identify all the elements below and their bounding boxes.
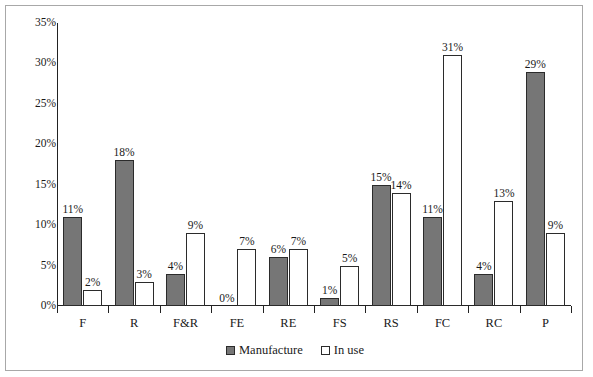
x-axis-category-label: RS <box>365 314 416 332</box>
chart-legend: ManufactureIn use <box>6 344 584 357</box>
x-axis-tick <box>108 306 109 313</box>
bar-in-use[interactable] <box>340 266 359 306</box>
bar-series-layer: 11%2%18%3%4%9%0%7%6%7%1%5%15%14%11%31%4%… <box>57 23 571 306</box>
x-axis-category-label: P <box>520 314 571 332</box>
bar-in-use[interactable] <box>392 193 411 306</box>
bar-in-use[interactable] <box>289 249 308 306</box>
x-axis-tick <box>160 306 161 313</box>
y-axis-tick-label: 5% <box>12 260 56 272</box>
x-axis-category-label: F&R <box>160 314 211 332</box>
bar-manufacture[interactable] <box>372 185 391 306</box>
x-axis-tick <box>417 306 418 313</box>
bar-slot: 5% <box>340 23 359 306</box>
bar-slot: 7% <box>237 23 256 306</box>
bar-in-use[interactable] <box>546 233 565 306</box>
bar-slot: 29% <box>526 23 545 306</box>
x-axis-category-label: F <box>57 314 108 332</box>
bar-value-label: 5% <box>342 253 357 265</box>
legend-label: Manufacture <box>239 344 303 357</box>
x-axis-category-label: FC <box>417 314 468 332</box>
x-axis-category-labels: FRF&RFEREFSRSFCRCP <box>57 314 571 332</box>
bar-value-label: 0% <box>219 293 234 305</box>
y-axis-tick-label: 0% <box>12 300 56 312</box>
y-axis-tick-label: 10% <box>12 219 56 231</box>
bar-slot: 0% <box>217 23 236 306</box>
x-axis-tick <box>263 306 264 313</box>
bar-slot: 2% <box>83 23 102 306</box>
bar-manufacture[interactable] <box>526 72 545 306</box>
x-axis-category-label: RC <box>468 314 519 332</box>
bar-manufacture[interactable] <box>423 217 442 306</box>
bar-value-label: 11% <box>422 204 443 216</box>
bar-in-use[interactable] <box>237 249 256 306</box>
bar-value-label: 7% <box>291 236 306 248</box>
bar-manufacture[interactable] <box>115 160 134 306</box>
chart-frame: 0%5%10%15%20%25%30%35% 11%2%18%3%4%9%0%7… <box>5 5 583 371</box>
bar-value-label: 4% <box>476 261 491 273</box>
bar-value-label: 7% <box>239 236 254 248</box>
bar-slot: 6% <box>269 23 288 306</box>
bar-value-label: 9% <box>548 220 563 232</box>
bar-group: 6%7% <box>263 23 314 306</box>
bar-in-use[interactable] <box>186 233 205 306</box>
bar-value-label: 15% <box>371 172 392 184</box>
bar-slot: 14% <box>392 23 411 306</box>
bar-in-use[interactable] <box>135 282 154 306</box>
bar-slot: 4% <box>474 23 493 306</box>
bar-group: 4%13% <box>468 23 519 306</box>
x-axis-tick <box>468 306 469 313</box>
y-axis-tick-label: 20% <box>12 139 56 151</box>
y-axis-tick-label: 15% <box>12 179 56 191</box>
bar-value-label: 14% <box>391 180 412 192</box>
bar-group: 1%5% <box>314 23 365 306</box>
x-axis-category-label: FE <box>211 314 262 332</box>
bar-value-label: 9% <box>188 220 203 232</box>
bar-slot: 1% <box>320 23 339 306</box>
bar-value-label: 4% <box>168 261 183 273</box>
bar-in-use[interactable] <box>83 290 102 306</box>
bar-slot: 11% <box>423 23 442 306</box>
bar-slot: 9% <box>546 23 565 306</box>
bar-value-label: 29% <box>525 59 546 71</box>
x-axis-category-label: FS <box>314 314 365 332</box>
bar-slot: 13% <box>494 23 513 306</box>
bar-group: 11%31% <box>417 23 468 306</box>
bar-in-use[interactable] <box>494 201 513 306</box>
bar-value-label: 3% <box>136 269 151 281</box>
bar-group: 29%9% <box>520 23 571 306</box>
bar-manufacture[interactable] <box>269 257 288 306</box>
x-axis-tick <box>57 306 58 313</box>
bar-value-label: 13% <box>493 188 514 200</box>
bar-manufacture[interactable] <box>63 217 82 306</box>
x-axis-tick <box>571 306 572 313</box>
bar-group: 18%3% <box>108 23 159 306</box>
bar-group: 4%9% <box>160 23 211 306</box>
legend-label: In use <box>334 344 364 357</box>
x-axis-tick <box>211 306 212 313</box>
bar-slot: 11% <box>63 23 82 306</box>
bar-group: 11%2% <box>57 23 108 306</box>
bar-slot: 31% <box>443 23 462 306</box>
bar-value-label: 1% <box>322 285 337 297</box>
legend-item[interactable]: In use <box>321 344 364 357</box>
bar-value-label: 6% <box>271 244 286 256</box>
plot-area: 11%2%18%3%4%9%0%7%6%7%1%5%15%14%11%31%4%… <box>57 23 571 306</box>
bar-slot: 15% <box>372 23 391 306</box>
bar-in-use[interactable] <box>443 55 462 306</box>
x-axis-tick-marks <box>57 306 571 313</box>
x-axis-tick <box>314 306 315 313</box>
bar-slot: 18% <box>115 23 134 306</box>
x-axis-tick <box>520 306 521 313</box>
y-axis-tick-labels: 0%5%10%15%20%25%30%35% <box>10 6 56 370</box>
legend-item[interactable]: Manufacture <box>226 344 303 357</box>
x-axis-tick <box>365 306 366 313</box>
bar-manufacture[interactable] <box>166 274 185 306</box>
bar-manufacture[interactable] <box>320 298 339 306</box>
bar-slot: 4% <box>166 23 185 306</box>
y-axis-tick-label: 30% <box>12 58 56 70</box>
bar-manufacture[interactable] <box>474 274 493 306</box>
bar-value-label: 2% <box>85 277 100 289</box>
legend-swatch-manufacture-icon <box>226 346 235 355</box>
y-axis-tick-label: 25% <box>12 98 56 110</box>
x-axis-category-label: RE <box>263 314 314 332</box>
